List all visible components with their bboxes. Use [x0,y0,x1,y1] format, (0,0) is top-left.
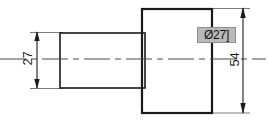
shaft-rectangle [60,33,145,88]
dimension-value-left[interactable]: 27 [21,52,34,66]
arrowhead-right-bottom [240,103,245,114]
dimension-value-right[interactable]: 54 [228,53,241,67]
diameter-callout-text: Ø27] [204,29,229,41]
diameter-callout-highlight[interactable]: Ø27] [197,27,236,43]
engineering-drawing-canvas[interactable]: 27 54 Ø27] [0,0,268,122]
arrowhead-left-bottom [34,79,39,89]
extension-lines [30,9,250,114]
part-outline [60,9,212,113]
flange-rectangle [142,9,212,113]
